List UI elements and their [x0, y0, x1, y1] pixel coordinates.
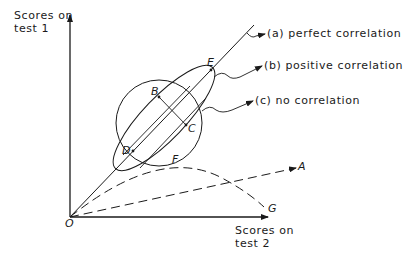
dashed-line-oa	[70, 168, 296, 217]
x-axis-label-line1: Scores on	[235, 224, 294, 237]
leader-b	[214, 66, 262, 78]
point-label-b: B	[151, 86, 159, 98]
annotation-positive-correlation: (b) positive correlation	[264, 59, 403, 72]
x-axis-label-line2: test 2	[235, 237, 270, 250]
dashed-curve-ofg	[70, 168, 264, 217]
leader-a	[247, 33, 265, 37]
y-axis-label-line2: test 1	[14, 22, 49, 35]
point-e-dot	[210, 69, 213, 72]
leader-c	[202, 101, 253, 112]
perfect-correlation-line	[70, 25, 254, 217]
point-label-origin: O	[65, 218, 74, 230]
point-label-a: A	[298, 161, 306, 173]
point-label-d: D	[122, 145, 130, 157]
point-d-dot	[132, 150, 135, 153]
b-c-line	[159, 97, 186, 125]
point-c-dot	[185, 124, 188, 127]
annotation-no-correlation: (c) no correlation	[255, 94, 360, 107]
y-axis-label-line1: Scores on	[14, 9, 73, 22]
point-label-f: F	[172, 154, 178, 166]
point-label-c: C	[188, 123, 196, 135]
point-label-g: G	[268, 203, 277, 215]
point-label-e: E	[207, 57, 214, 69]
annotation-perfect-correlation: (a) perfect correlation	[267, 27, 401, 40]
